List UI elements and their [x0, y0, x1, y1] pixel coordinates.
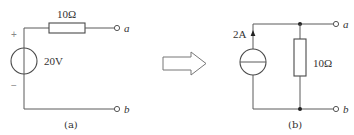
- transform-arrow-icon: [163, 52, 206, 75]
- minus-sign: −: [11, 80, 17, 91]
- current-direction-arrow-icon: [251, 30, 256, 36]
- caption-a: (a): [64, 119, 78, 130]
- terminal-b-b-icon: [333, 106, 338, 111]
- circuit-diagram: a 10Ω + − 20V b (a) 2A a: [0, 0, 354, 135]
- terminal-b-b-label: b: [343, 103, 349, 115]
- terminal-b-label: b: [124, 103, 130, 115]
- terminal-b-bottom-icon: [114, 106, 119, 111]
- circuit-b: 2A a 10Ω b (b): [233, 18, 349, 131]
- terminal-a-label: a: [124, 22, 130, 34]
- caption-b: (b): [288, 119, 302, 130]
- current-source-label: 2A: [233, 28, 247, 40]
- resistor-b-label: 10Ω: [313, 57, 332, 69]
- circuit-a: a 10Ω + − 20V b (a): [11, 8, 130, 130]
- voltage-source-label: 20V: [44, 55, 63, 67]
- resistor-a: [49, 23, 85, 33]
- plus-sign: +: [11, 29, 17, 40]
- terminal-b-a-icon: [333, 21, 338, 26]
- node-bottom-dot-icon: [298, 107, 302, 111]
- terminal-a-top-icon: [114, 25, 119, 30]
- resistor-a-label: 10Ω: [57, 8, 76, 20]
- terminal-b-a-label: a: [343, 18, 349, 30]
- resistor-b: [294, 39, 306, 76]
